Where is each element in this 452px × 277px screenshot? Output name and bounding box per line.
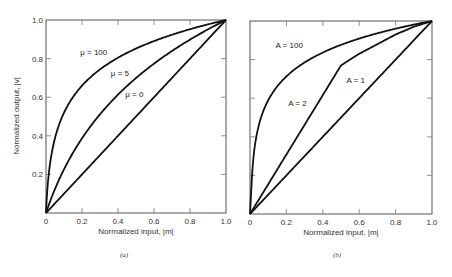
- caption-b: (b): [333, 251, 342, 259]
- y-tick-label: 0.2: [32, 170, 44, 179]
- curve-label: A = 2: [288, 99, 307, 108]
- x-tick-label: 1.0: [426, 218, 438, 227]
- y-tick-label: 0.6: [32, 93, 44, 102]
- caption-a: (a): [120, 251, 129, 259]
- y-axis-label-a: Normalized output, |v|: [12, 77, 21, 155]
- panel-a-mu-law: 00.20.40.60.81.00.20.40.60.81.0 μ = 100μ…: [12, 16, 232, 259]
- curve-labels-a: μ = 100μ = 5μ = 0: [80, 48, 144, 99]
- y-tick-label: 1.0: [32, 16, 44, 25]
- ticks-b: 00.20.40.60.81.0: [248, 21, 438, 227]
- x-axis-label-a: Normalized input, |m|: [98, 227, 173, 236]
- curve-label: μ = 0: [125, 90, 144, 99]
- curve-label: A = 1: [346, 76, 365, 85]
- x-tick-label: 0.2: [76, 217, 88, 226]
- x-tick-label: 0.8: [184, 217, 196, 226]
- x-tick-label: 1.0: [220, 217, 232, 226]
- y-tick-label: 0.4: [32, 132, 44, 141]
- companding-figure: 00.20.40.60.81.00.20.40.60.81.0 μ = 100μ…: [0, 0, 452, 277]
- x-tick-label: 0.6: [148, 217, 160, 226]
- curve-label: μ = 5: [111, 69, 130, 78]
- y-tick-label: 0.8: [32, 55, 44, 64]
- x-tick-label: 0.4: [112, 217, 124, 226]
- panel-b-a-law: 00.20.40.60.81.0 A = 100A = 1A = 2 Norma…: [248, 21, 438, 259]
- x-tick-label: 0.2: [281, 218, 293, 227]
- curve-label: μ = 100: [80, 48, 108, 57]
- x-tick-label: 0.4: [317, 218, 329, 227]
- curves-a: [46, 20, 226, 213]
- x-tick-label: 0.6: [354, 218, 366, 227]
- x-tick-label: 0: [248, 218, 253, 227]
- x-tick-label: 0: [44, 217, 49, 226]
- x-tick-label: 0.8: [390, 218, 402, 227]
- x-axis-label-b: Normalized input, |m|: [303, 228, 378, 237]
- curve-label: A = 100: [275, 41, 303, 50]
